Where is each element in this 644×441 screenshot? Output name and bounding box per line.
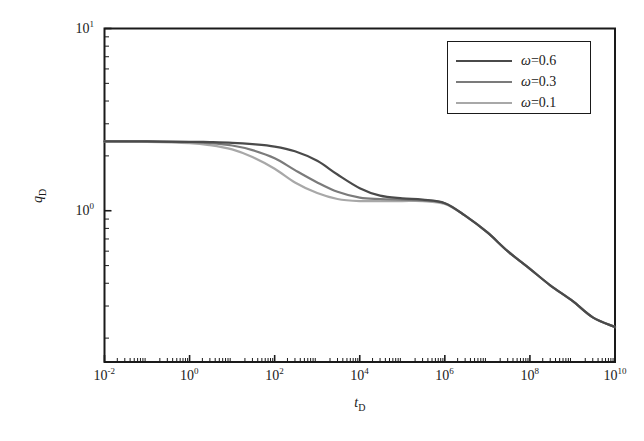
legend-label-1: ω=0.3 [521, 74, 556, 90]
x-tick-label-0: 10-2 [94, 368, 116, 384]
legend-swatch-0 [456, 60, 512, 62]
chart-legend: ω=0.6ω=0.3ω=0.1 [447, 41, 591, 114]
x-tick-label-4: 106 [435, 368, 454, 384]
y-axis-title: qD [30, 189, 46, 203]
curve-w=0.3 [105, 141, 616, 327]
legend-entry-1: ω=0.3 [456, 73, 556, 91]
x-tick-label-6: 1010 [604, 368, 627, 384]
legend-swatch-1 [456, 81, 512, 83]
y-tick-label-1: 100 [76, 203, 95, 219]
y-tick-label-0: 101 [76, 21, 95, 37]
x-tick-label-2: 102 [265, 368, 284, 384]
curve-w=0.6 [105, 141, 616, 327]
data-curves [105, 141, 616, 327]
x-tick-label-1: 100 [180, 368, 199, 384]
legend-label-2: ω=0.1 [521, 95, 556, 111]
legend-entry-2: ω=0.1 [456, 94, 556, 112]
x-axis-title: tD [354, 395, 365, 411]
x-tick-label-5: 108 [520, 368, 539, 384]
legend-entry-0: ω=0.6 [456, 52, 556, 70]
x-tick-label-3: 104 [350, 368, 369, 384]
curve-w=0.1 [105, 141, 616, 327]
legend-swatch-2 [456, 102, 512, 104]
legend-label-0: ω=0.6 [521, 53, 556, 69]
figure-canvas: 10-21001021041061081010 101100 tD qD ω=0… [0, 0, 644, 441]
